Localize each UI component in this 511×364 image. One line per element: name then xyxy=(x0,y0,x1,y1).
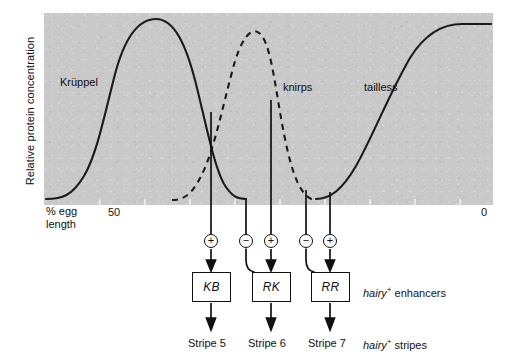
curve-label-tailless: tailless xyxy=(364,81,398,93)
stripe-label-7: Stripe 7 xyxy=(308,337,346,349)
stripes-word: stripes xyxy=(395,339,427,351)
sign-glyph: + xyxy=(208,235,214,246)
enhancer-box-rk: RK xyxy=(252,272,291,302)
x-tick-label-50: 50 xyxy=(108,206,120,218)
curve-label-knirps: knirps xyxy=(283,81,312,93)
stripes-annotation: hairy+ stripes xyxy=(363,337,427,351)
plot-panel xyxy=(44,13,493,205)
curve-label-kruppel: Krüppel xyxy=(60,76,98,88)
sign-circle-minus-2: − xyxy=(299,234,313,248)
sign-glyph: + xyxy=(268,235,274,246)
enhancers-superscript: + xyxy=(387,285,392,294)
panel-texture xyxy=(44,13,493,205)
sign-circle-minus-1: − xyxy=(239,234,253,248)
x-axis-label: % egg length xyxy=(46,205,77,230)
stripe-arrows xyxy=(207,303,335,330)
stripes-gene-name: hairy xyxy=(363,339,387,351)
sign-glyph: + xyxy=(327,235,333,246)
sign-glyph: − xyxy=(243,235,249,246)
sign-circle-plus-3: + xyxy=(323,234,337,248)
enhancers-word: enhancers xyxy=(395,287,446,299)
x-tick-label-0: 0 xyxy=(481,206,487,218)
stripe-label-6: Stripe 6 xyxy=(248,337,286,349)
sign-glyph: − xyxy=(303,235,309,246)
stripes-superscript: + xyxy=(387,337,392,346)
stripe-label-5: Stripe 5 xyxy=(188,337,226,349)
activation-arrows xyxy=(207,249,335,271)
figure-root: Relative protein concentration xyxy=(0,0,511,364)
enhancer-box-rr: RR xyxy=(311,272,350,302)
enhancer-box-kb: KB xyxy=(192,272,231,302)
sign-circle-plus-1: + xyxy=(204,234,218,248)
enhancers-gene-name: hairy xyxy=(363,287,387,299)
enhancers-annotation: hairy+ enhancers xyxy=(363,285,446,299)
sign-circle-plus-2: + xyxy=(264,234,278,248)
repression-hooks xyxy=(246,249,314,272)
y-axis-label: Relative protein concentration xyxy=(24,24,36,199)
